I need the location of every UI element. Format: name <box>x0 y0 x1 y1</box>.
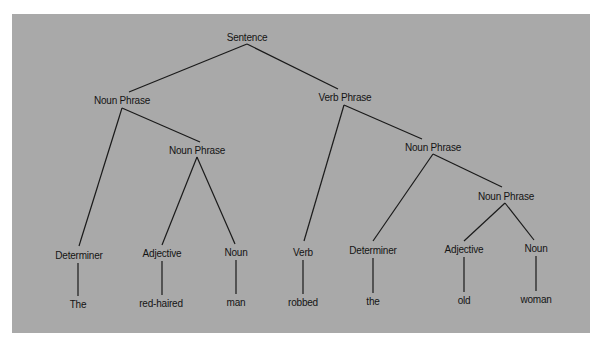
edge-s-np1 <box>129 44 247 92</box>
node-adjective-1: Adjective <box>143 248 182 259</box>
node-sentence: Sentence <box>227 32 268 43</box>
word-woman: woman <box>520 294 551 305</box>
word-the-2: the <box>366 296 379 307</box>
edge-np1-np2 <box>122 108 200 142</box>
edge-np4-n2 <box>505 203 534 240</box>
word-the-1: The <box>70 299 87 310</box>
edge-np3-det2 <box>373 154 433 241</box>
node-noun-2: Noun <box>524 243 547 254</box>
tree-edges <box>0 0 603 344</box>
word-red-haired: red-haired <box>139 298 183 309</box>
node-verb-phrase: Verb Phrase <box>319 92 372 103</box>
edge-vp-v1 <box>304 105 344 241</box>
word-robbed: robbed <box>288 297 318 308</box>
word-man: man <box>227 297 246 308</box>
node-noun-1: Noun <box>224 247 247 258</box>
node-noun-phrase-inner: Noun Phrase <box>169 145 225 156</box>
word-old: old <box>458 295 471 306</box>
node-noun-phrase-subject: Noun Phrase <box>94 95 150 106</box>
edge-np3-np4 <box>433 154 502 187</box>
edge-s-vp <box>247 44 338 89</box>
edge-vp-np3 <box>344 105 422 139</box>
node-determiner-2: Determiner <box>349 245 396 256</box>
edge-np4-adj2 <box>464 203 505 241</box>
edge-np2-adj1 <box>162 157 197 245</box>
node-noun-phrase-object-inner: Noun Phrase <box>478 191 534 202</box>
edge-np2-n1 <box>197 157 235 244</box>
edge-np1-det1 <box>79 108 122 246</box>
node-adjective-2: Adjective <box>445 244 484 255</box>
node-determiner-1: Determiner <box>55 250 102 261</box>
node-verb: Verb <box>293 247 313 258</box>
node-noun-phrase-object: Noun Phrase <box>405 142 461 153</box>
